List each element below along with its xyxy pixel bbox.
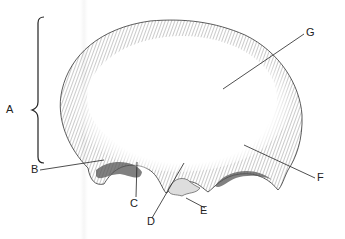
label-G: G — [306, 27, 315, 38]
label-C: C — [130, 198, 138, 209]
label-E: E — [200, 205, 207, 216]
frontal-bone-diagram — [0, 0, 345, 239]
bone-body — [60, 20, 302, 193]
label-A: A — [6, 104, 13, 115]
bracket-A — [32, 17, 44, 163]
label-D: D — [147, 216, 155, 227]
label-F: F — [317, 172, 324, 183]
label-B: B — [31, 164, 38, 175]
